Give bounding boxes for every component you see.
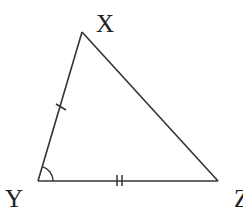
side-zx (82, 32, 218, 181)
vertex-label-y: Y (5, 185, 23, 212)
vertex-label-z: Z (234, 185, 243, 212)
angle-arc-y (42, 167, 53, 181)
vertex-label-x: X (96, 10, 114, 37)
triangle-diagram: X Y Z (0, 0, 243, 217)
